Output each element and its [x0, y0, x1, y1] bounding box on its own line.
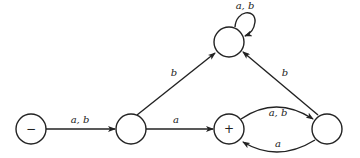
label-s1-s3: b: [171, 67, 177, 78]
label-s3-loop: a, b: [236, 0, 255, 11]
label-s4-s3: b: [282, 67, 288, 78]
label-s4-s2: a: [275, 138, 281, 149]
edge-s1-s3: [137, 53, 215, 115]
edge-s4-s3: [243, 52, 318, 115]
state-trap: [214, 27, 244, 57]
label-s1-s2: a: [173, 114, 179, 125]
start-symbol: −: [26, 122, 36, 136]
state-s4: [312, 114, 342, 144]
state-s1: [116, 114, 146, 144]
automaton-diagram: − + a, b a b a, b a, b a b: [0, 0, 360, 158]
label-s2-s4: a, b: [269, 107, 288, 118]
final-symbol: +: [224, 122, 234, 136]
label-s0-s1: a, b: [71, 114, 90, 125]
